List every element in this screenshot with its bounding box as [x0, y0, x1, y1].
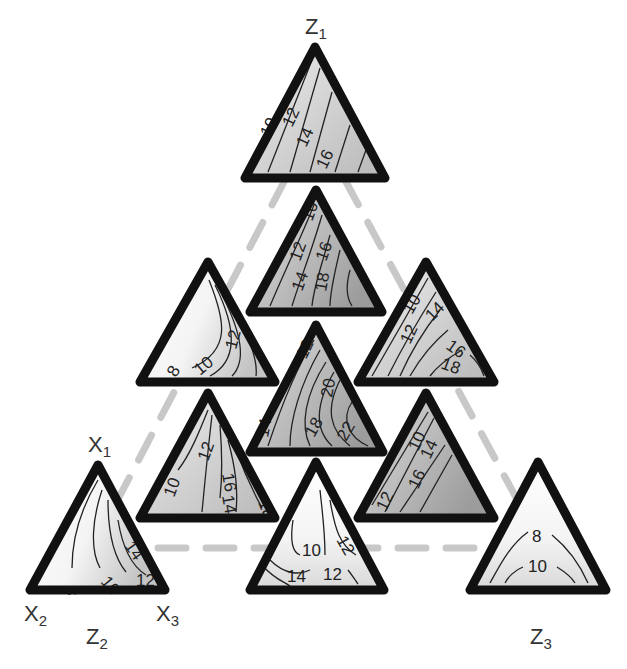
label-x3: X3	[156, 601, 179, 629]
label-z1: Z1	[305, 14, 327, 42]
svg-text:12: 12	[323, 565, 342, 584]
ternary-plot-row3-right: 10 12 14 16 18	[358, 262, 494, 382]
svg-text:14: 14	[218, 493, 240, 515]
ternary-plot-top: 10 12 14 16	[245, 47, 385, 178]
ternary-plot-bottom-center: 10 12 14 12	[250, 462, 384, 590]
svg-text:18: 18	[311, 271, 333, 293]
label-z3: Z3	[530, 624, 552, 652]
svg-text:16: 16	[218, 471, 240, 493]
svg-text:14: 14	[287, 567, 306, 586]
label-z2: Z2	[86, 624, 108, 652]
ternary-plot-bottom-right: 8 10	[470, 462, 606, 590]
label-x2: X2	[24, 601, 47, 629]
ternary-plot-row3-left: 8 10 12	[140, 262, 275, 382]
svg-text:10: 10	[528, 557, 547, 576]
ternary-plot-center: 12 20 14 18 22	[250, 325, 383, 452]
ternary-plot-bottom-left: 8 10 12 14	[30, 465, 165, 599]
svg-text:10: 10	[302, 541, 321, 560]
svg-text:20: 20	[317, 377, 339, 399]
svg-text:8: 8	[532, 527, 541, 546]
ternary-contour-diagram: 10 12 14 16 10 12 16 14 18	[0, 0, 627, 669]
ternary-plot-row2-center: 10 12 16 14 18	[250, 190, 382, 312]
label-x1: X1	[88, 432, 111, 460]
